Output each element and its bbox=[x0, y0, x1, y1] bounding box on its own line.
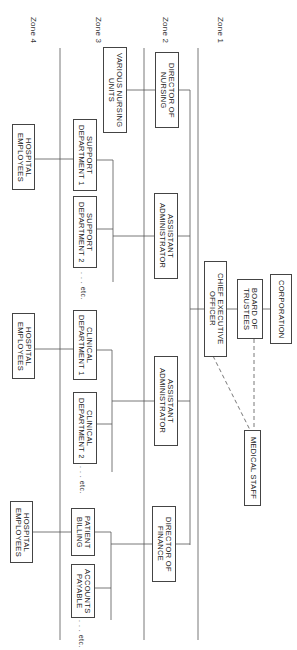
corporation-box: CORPORATION bbox=[270, 274, 292, 344]
director-of-nursing-box: DIRECTOR OF NURSING bbox=[155, 52, 179, 128]
clinical-department-2-label: CLINICAL DEPARTMENT 2 bbox=[77, 398, 93, 459]
clinical-department-2-box: CLINICAL DEPARTMENT 2 bbox=[73, 392, 97, 464]
accounts-payable-box: ACCOUNTS PAYABLE bbox=[71, 564, 95, 618]
zone-4-label: Zone 4 bbox=[29, 17, 38, 43]
chief-executive-officer-box: CHIEF EXECUTIVE OFFICER bbox=[204, 261, 227, 357]
zone-3-label: Zone 3 bbox=[94, 17, 103, 43]
support-etc-label: . . . etc. bbox=[80, 272, 87, 300]
accounts-payable-label: ACCOUNTS PAYABLE bbox=[75, 569, 91, 614]
support-department-1-label: SUPPORT DEPARTMENT 1 bbox=[77, 125, 93, 186]
hospital-employees-1-box: HOSPITAL EMPLOYEES bbox=[12, 124, 35, 190]
assistant-administrator-2-label: ASSISTANT ADMINISTRATOR bbox=[158, 368, 174, 433]
org-chart: Zone 1 Zone 2 Zone 3 Zone 4 CORPORATION … bbox=[0, 0, 297, 650]
various-nursing-units-label: VARIOUS NURSING UNITS bbox=[107, 53, 123, 127]
hospital-employees-2-label: HOSPITAL EMPLOYEES bbox=[16, 322, 32, 371]
support-department-1-box: SUPPORT DEPARTMENT 1 bbox=[73, 119, 97, 191]
assistant-administrator-2-box: ASSISTANT ADMINISTRATOR bbox=[154, 356, 178, 446]
finance-etc-label: . . . etc. bbox=[78, 620, 85, 648]
board-of-trustees-label: BOARD OF TRUSTEES bbox=[242, 288, 258, 330]
medical-staff-box: MEDICAL STAFF bbox=[244, 430, 261, 506]
board-of-trustees-box: BOARD OF TRUSTEES bbox=[237, 279, 263, 339]
hospital-employees-3-box: HOSPITAL EMPLOYEES bbox=[10, 501, 33, 563]
assistant-administrator-1-box: ASSISTANT ADMINISTRATOR bbox=[154, 193, 178, 279]
support-department-2-label: SUPPORT DEPARTMENT 2 bbox=[77, 202, 93, 263]
director-of-finance-label: DIRECTOR OF FINANCE bbox=[156, 517, 172, 572]
clinical-department-1-label: CLINICAL DEPARTMENT 1 bbox=[77, 315, 93, 376]
director-of-finance-box: DIRECTOR OF FINANCE bbox=[152, 506, 176, 582]
hospital-employees-1-label: HOSPITAL EMPLOYEES bbox=[16, 133, 32, 182]
patient-billing-box: PATIENT BILLING bbox=[71, 508, 95, 556]
ceo-label: CHIEF EXECUTIVE OFFICER bbox=[208, 273, 224, 345]
patient-billing-label: PATIENT BILLING bbox=[75, 516, 91, 549]
hospital-employees-3-label: HOSPITAL EMPLOYEES bbox=[14, 508, 30, 557]
zone-1-label: Zone 1 bbox=[216, 17, 225, 43]
zone-2-label: Zone 2 bbox=[161, 17, 170, 43]
director-of-nursing-label: DIRECTOR OF NURSING bbox=[159, 63, 175, 118]
medical-staff-label: MEDICAL STAFF bbox=[249, 437, 257, 499]
corporation-label: CORPORATION bbox=[277, 280, 285, 339]
support-department-2-box: SUPPORT DEPARTMENT 2 bbox=[73, 196, 97, 268]
assistant-administrator-1-label: ASSISTANT ADMINISTRATOR bbox=[158, 203, 174, 268]
various-nursing-units-box: VARIOUS NURSING UNITS bbox=[103, 47, 127, 133]
hospital-employees-2-box: HOSPITAL EMPLOYEES bbox=[12, 313, 35, 379]
clinical-etc-label: . . . etc. bbox=[79, 466, 86, 494]
clinical-department-1-box: CLINICAL DEPARTMENT 1 bbox=[73, 310, 97, 380]
